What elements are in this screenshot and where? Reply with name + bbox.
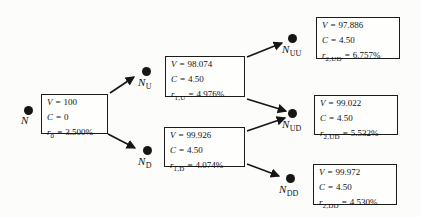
node-label-nud: NUD	[282, 119, 301, 134]
box-row: C=4.50	[320, 113, 394, 128]
box-row: C=4.50	[319, 182, 393, 197]
arrow-nd-to-nud	[247, 118, 285, 131]
value-box-nud: V=99.022 C=4.50 r2,UD=5.532%	[314, 95, 398, 135]
box-row: V=97.886	[322, 20, 396, 35]
node-label-nd: ND	[138, 156, 152, 171]
binomial-tree-diagram: N V=100 C=0 r0=3.500% NU V=98.074 C=4.50…	[0, 0, 421, 217]
box-row: C=4.50	[171, 74, 241, 89]
arrow-n-to-nu	[110, 77, 134, 93]
value-box-nuu: V=97.886 C=4.50 r2,UD=6.757%	[316, 17, 400, 59]
box-row: r2,DD=4.530%	[319, 197, 393, 212]
box-row: C=4.50	[170, 145, 241, 160]
node-dot-ndd	[286, 174, 295, 183]
node-dot-nu	[142, 67, 151, 76]
value-box-nu: V=98.074 C=4.50 r1,U=4.976%	[165, 56, 245, 97]
box-row: C=4.50	[322, 35, 396, 50]
arrow-nu-to-nuu	[247, 43, 282, 57]
box-row: r2,UD=6.757%	[322, 50, 396, 65]
box-row: V=99.926	[170, 130, 241, 145]
box-row: V=98.074	[171, 59, 241, 74]
box-row: r1,U=4.976%	[171, 89, 241, 104]
node-dot-nd	[143, 146, 152, 155]
node-label-n: N	[21, 115, 29, 130]
box-row: V=99.022	[320, 98, 394, 113]
box-row: V=99.972	[319, 167, 393, 182]
node-label-ndd: NDD	[279, 184, 298, 199]
node-label-nuu: NUU	[282, 44, 301, 59]
arrow-nu-to-nud	[247, 99, 286, 111]
box-row: r1,D=4.074%	[170, 160, 241, 175]
box-row: r2,UD=5.532%	[320, 128, 394, 143]
value-box-n: V=100 C=0 r0=3.500%	[41, 94, 108, 134]
box-row: C=0	[47, 112, 104, 127]
node-label-nu: NU	[138, 77, 152, 92]
box-row: r0=3.500%	[47, 127, 104, 142]
arrow-nd-to-ndd	[247, 164, 279, 176]
arrow-n-to-nd	[108, 134, 135, 148]
node-dot-nud	[288, 109, 297, 118]
value-box-ndd: V=99.972 C=4.50 r2,DD=4.530%	[313, 164, 397, 205]
value-box-nd: V=99.926 C=4.50 r1,D=4.074%	[164, 127, 245, 167]
node-dot-nuu	[288, 34, 297, 43]
box-row: V=100	[47, 97, 104, 112]
